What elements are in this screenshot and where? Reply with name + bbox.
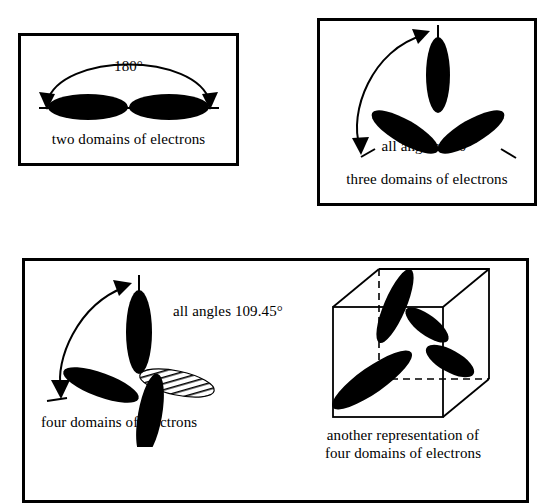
caption-four-domains: four domains of electrons	[41, 414, 197, 432]
cube-representation-figure	[313, 261, 513, 431]
cube-edge-top-right	[443, 269, 489, 307]
axis-line-left	[47, 398, 67, 401]
panel-four-domains: all angles 109.45° four domains of elect…	[22, 258, 529, 503]
electron-lobe-right	[129, 94, 209, 120]
cube-lobe-group	[325, 265, 479, 418]
electron-lobe-up	[426, 37, 450, 113]
arrowhead-top	[412, 29, 430, 44]
caption-cube-line1: another representation of	[283, 427, 523, 445]
cube-electron-lobe-upper-left	[369, 265, 421, 347]
caption-three-domains: three domains of electrons	[320, 171, 534, 189]
panel-three-domains: all angles 120° three domains of electro…	[317, 18, 537, 206]
angle-label-180: 180°	[21, 58, 236, 76]
cube-electron-lobe-lower-left	[325, 342, 419, 418]
caption-two-domains: two domains of electrons	[21, 131, 236, 149]
cube-electron-lobe-lower-right	[421, 338, 479, 383]
cube-edge-top-left	[333, 269, 379, 307]
electron-lobe-up	[126, 290, 152, 374]
caption-cube-representation: another representation of four domains o…	[283, 427, 523, 462]
cube-edge-bottom-right	[443, 379, 489, 417]
cube-electron-lobe-upper-right	[400, 301, 454, 348]
electron-lobe-left	[59, 360, 142, 410]
caption-cube-line2: four domains of electrons	[283, 445, 523, 463]
panel-two-domains: 180° two domains of electrons	[18, 33, 239, 166]
angle-label-109: all angles 109.45°	[173, 303, 283, 321]
angle-label-120: all angles 120°	[320, 138, 534, 156]
electron-lobe-left	[48, 94, 128, 120]
arrowhead-bottom	[51, 380, 70, 399]
arrowhead-top	[113, 280, 132, 296]
